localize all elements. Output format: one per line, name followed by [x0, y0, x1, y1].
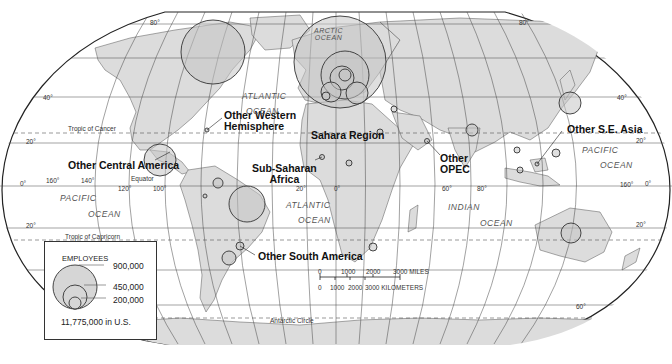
label-line: Hemisphere [224, 121, 296, 132]
label-equator: Equator [131, 176, 154, 183]
scale-miles-3000: 3000 MILES [393, 268, 429, 275]
circle-egypt [391, 106, 397, 112]
scale-miles-1000: 1000 [341, 268, 355, 275]
deg-lat-80: 80° [150, 20, 160, 27]
deg-lon-20w: 20° [296, 186, 306, 193]
deg-lon-80e: 80° [477, 186, 487, 193]
circle-philippines [552, 149, 560, 157]
circle-brazil [229, 186, 265, 222]
deg-lat-m60: 60° [576, 304, 586, 311]
circle-europe-small2 [339, 69, 351, 81]
label-other-se-asia: Other S.E. Asia [567, 124, 642, 135]
label-line: Africa [252, 174, 317, 185]
label-pacific-east: PACIFICOCEAN [60, 190, 121, 222]
circle-canada [181, 20, 245, 84]
label-line: Other [440, 153, 470, 164]
label-arctic-ocean: ARCTICOCEAN [314, 27, 343, 41]
label-tropic-of-cancer: Tropic of Cancer [68, 126, 116, 133]
scale-km-1000: 1000 [330, 284, 344, 291]
circle-europe-small5 [322, 92, 330, 100]
deg-lon-140w: 140° [81, 178, 94, 185]
label-atlantic-north: ATLANTICOCEAN [242, 89, 286, 120]
deg-lat-0-left: 0° [20, 181, 26, 188]
deg-lat-40-left: 40° [43, 95, 53, 102]
label-line: Sub-Saharan [252, 163, 317, 174]
circle-malaysia [517, 167, 523, 173]
circle-peru [203, 194, 207, 198]
label-atlantic-south: ATLANTICOCEAN [286, 198, 331, 229]
circle-argentina [222, 251, 236, 265]
deg-lon-60e: 60° [442, 186, 452, 193]
circle-europe-small4 [346, 82, 368, 104]
label-tropic-of-capricorn: Tropic of Capricorn [65, 234, 120, 241]
circle-colombia [213, 178, 223, 188]
circle-australia [561, 223, 581, 243]
label-other-central-america: Other Central America [68, 160, 179, 171]
circle-korea [559, 92, 581, 114]
deg-lat-20-right: 20° [636, 138, 646, 145]
deg-lon-160w: 160° [46, 178, 59, 185]
label-other-south-america: Other South America [258, 251, 363, 262]
circle-thailand [514, 147, 520, 153]
deg-lat-20-left: 20° [26, 139, 36, 146]
deg-lat-m20-left: 20° [26, 223, 36, 230]
label-line: OPEC [440, 164, 470, 175]
label-pacific-west: PACIFICOCEAN [582, 143, 633, 174]
circle-india [466, 124, 478, 136]
deg-lon-160e: 160° [620, 182, 633, 189]
label-other-opec: Other OPEC [440, 153, 470, 174]
scale-miles-0: 0 [318, 268, 322, 275]
deg-lat-m20-right: 20° [636, 222, 646, 229]
scale-km-3000: 3000 KILOMETERS [365, 284, 423, 291]
legend-us-note: 11,775,000 in U.S. [61, 317, 131, 327]
deg-lon-0: 0° [334, 186, 340, 193]
legend-value-900k: 900,000 [113, 261, 144, 271]
legend-value-200k: 200,000 [113, 295, 144, 305]
label-indian-ocean: INDIANOCEAN [448, 199, 513, 231]
label-sahara-region: Sahara Region [311, 130, 385, 141]
deg-lat-40-right: 40° [617, 95, 627, 102]
circle-africa-south [369, 243, 377, 251]
label-sub-saharan-africa: Sub-Saharan Africa [252, 163, 317, 184]
legend-value-450k: 450,000 [113, 282, 144, 292]
scale-miles-2000: 2000 [366, 268, 380, 275]
deg-lat-80-right: 80° [519, 20, 529, 27]
scale-km-0: 0 [318, 284, 322, 291]
deg-lon-100w: 100° [153, 186, 166, 193]
scale-km-2000: 2000 [348, 284, 362, 291]
circle-nigeria [346, 160, 352, 166]
deg-lat-0-right: 0° [645, 181, 651, 188]
label-antarctic-circle: Antarctic Circle [270, 318, 314, 325]
deg-lon-120w: 120° [118, 186, 131, 193]
